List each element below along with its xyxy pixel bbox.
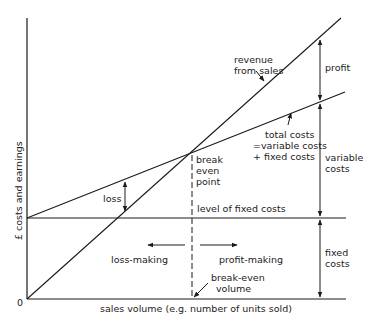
loss-making-label: loss-making [111, 254, 168, 265]
break-even-point-label: break even point [196, 154, 223, 187]
loss-label: loss [103, 193, 121, 204]
profit-label: profit [325, 62, 350, 73]
y-axis-label: £ costs and earnings [13, 141, 24, 240]
profit-making-label: profit-making [219, 254, 283, 265]
fixed-costs-level-label: level of fixed costs [197, 203, 286, 214]
break-even-volume-label: break-even volume [211, 272, 265, 294]
revenue-label: revenue from sales [234, 54, 283, 76]
total-costs-label: total costs =variable costs + fixed cost… [253, 129, 327, 162]
break-even-volume-leader-arrow [194, 283, 208, 297]
break-even-chart [0, 0, 371, 327]
fixed-costs-label: fixed costs [325, 247, 350, 269]
x-axis-label: sales volume (e.g. number of units sold) [100, 303, 292, 314]
origin-label: 0 [17, 297, 23, 308]
variable-costs-label: variable costs [325, 152, 363, 174]
